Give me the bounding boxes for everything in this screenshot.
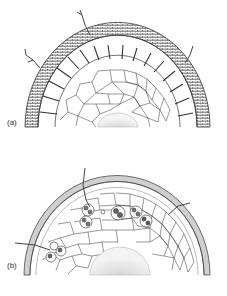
- outer-mantle: [25, 22, 210, 127]
- panel-label-a: (a): [7, 118, 17, 127]
- panel-label-b: (b): [7, 261, 17, 270]
- panel-b-endomycorrhiza-section: (b): [0, 150, 227, 296]
- root-section-a-drawing: [0, 0, 227, 150]
- root-section-b-drawing: [0, 150, 227, 296]
- panel-a-ectomycorrhiza-section: (a): [0, 0, 227, 150]
- stele-core: [98, 113, 138, 127]
- stele-core: [90, 247, 150, 275]
